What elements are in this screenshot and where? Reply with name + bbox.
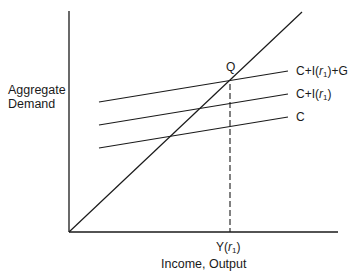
y-axis-label: Aggregate Demand <box>8 83 66 111</box>
diagram-canvas <box>0 0 353 280</box>
line-c-i-g <box>99 71 288 102</box>
equilibrium-income-label: Y(r1) <box>216 241 240 257</box>
line-c-i <box>99 94 288 125</box>
y-axis-label-line2: Demand <box>8 97 66 111</box>
line-label-c: C <box>296 111 305 124</box>
y-axis-label-line1: Aggregate <box>8 83 66 97</box>
line-label-c-i-g: C+I(r1)+G <box>296 65 348 81</box>
45-degree-line <box>69 12 302 232</box>
line-label-c-i: C+I(r1) <box>296 88 331 104</box>
line-c <box>99 117 288 148</box>
x-axis-label: Income, Output <box>161 258 246 271</box>
equilibrium-point-label: Q <box>226 61 235 74</box>
